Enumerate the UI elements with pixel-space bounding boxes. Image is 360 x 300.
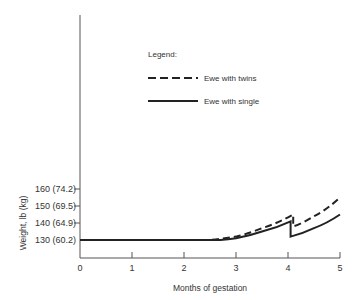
weight-gestation-chart: 012345 130 (60.2)140 (64.9)150 (69.5)160… bbox=[0, 0, 360, 300]
x-axis-title: Months of gestation bbox=[173, 283, 247, 293]
y-tick-label: 140 (64.9) bbox=[35, 218, 76, 228]
x-tick-label: 5 bbox=[337, 263, 342, 273]
x-tick-label: 3 bbox=[233, 263, 238, 273]
x-tick-label: 0 bbox=[77, 263, 82, 273]
legend-label-single: Ewe with single bbox=[204, 97, 260, 106]
x-tick-label: 4 bbox=[285, 263, 290, 273]
series-single-line bbox=[80, 215, 340, 241]
y-ticks: 130 (60.2)140 (64.9)150 (69.5)160 (74.2) bbox=[35, 184, 80, 245]
x-tick-label: 2 bbox=[181, 263, 186, 273]
legend-title: Legend: bbox=[148, 50, 177, 59]
x-ticks: 012345 bbox=[77, 252, 342, 273]
x-tick-label: 1 bbox=[129, 263, 134, 273]
y-tick-label: 160 (74.2) bbox=[35, 184, 76, 194]
legend-label-twins: Ewe with twins bbox=[204, 74, 256, 83]
y-tick-label: 130 (60.2) bbox=[35, 235, 76, 245]
y-axis-title: Weight, lb (kg) bbox=[18, 196, 28, 251]
series-layer bbox=[80, 198, 340, 241]
y-tick-label: 150 (69.5) bbox=[35, 201, 76, 211]
legend: Legend: Ewe with twins Ewe with single bbox=[148, 50, 260, 106]
